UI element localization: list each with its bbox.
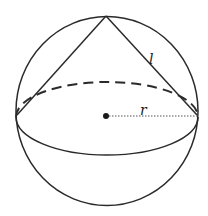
slant-label: l xyxy=(149,51,153,67)
cone-in-sphere-diagram: l r xyxy=(0,0,208,216)
cone-left-side xyxy=(17,16,106,115)
equator-front xyxy=(16,117,198,155)
center-point xyxy=(103,113,109,119)
sphere-outline xyxy=(16,17,198,206)
radius-label: r xyxy=(140,102,148,118)
